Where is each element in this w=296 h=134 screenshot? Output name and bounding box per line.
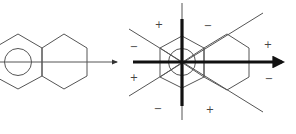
phase-sign: − xyxy=(130,41,138,52)
phase-sign: − xyxy=(204,20,212,31)
phase-sign: − xyxy=(154,103,162,114)
phase-signs: + − − + + − − + xyxy=(130,19,273,115)
nodal-line-2 xyxy=(129,13,263,96)
phase-sign: + xyxy=(130,72,138,83)
phase-sign: + xyxy=(206,104,214,115)
left-molecule xyxy=(0,34,117,89)
symmetry-diagram: + − − + + − − + xyxy=(0,0,296,134)
phase-sign: − xyxy=(265,73,273,84)
nodal-line-1 xyxy=(129,29,263,112)
right-molecule: + − − + + − − + xyxy=(129,3,282,120)
phase-sign: + xyxy=(155,19,163,30)
phase-sign: + xyxy=(264,39,272,50)
